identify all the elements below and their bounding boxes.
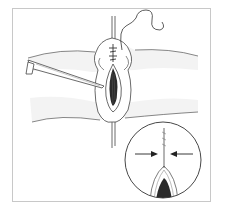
magnified-inset	[125, 122, 201, 200]
surgical-illustration	[0, 0, 226, 216]
suture-thread	[121, 10, 164, 50]
